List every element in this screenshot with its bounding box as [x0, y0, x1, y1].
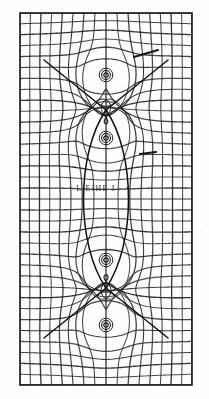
figure-root: · • L ΕΙΗΕ Ι · • — [0, 0, 209, 399]
field-map-plot — [0, 0, 209, 399]
handwritten-annotation: · • L ΕΙΗΕ Ι · • — [62, 184, 130, 193]
saddle-point-marker — [105, 109, 108, 112]
saddle-point-marker — [105, 287, 108, 290]
